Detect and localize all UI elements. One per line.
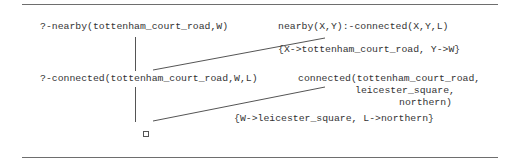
- clause-connected-fact-line3: northern): [298, 97, 452, 109]
- empty-clause-icon: [143, 131, 149, 137]
- substitution-1: {X->tottenham_court_road, Y->W}: [278, 44, 460, 56]
- goal-connected: ?-connected(tottenham_court_road,W,L): [40, 73, 258, 85]
- goal-nearby: ?-nearby(tottenham_court_road,W): [40, 21, 228, 33]
- clause-connected-fact-line1: connected(tottenham_court_road,: [298, 73, 455, 85]
- clause-nearby-rule: nearby(X,Y):-connected(X,Y,L): [278, 21, 449, 33]
- clause-connected-fact-line2: leicester_square,: [298, 85, 455, 97]
- substitution-2: {W->leicester_square, L->northern}: [234, 113, 434, 125]
